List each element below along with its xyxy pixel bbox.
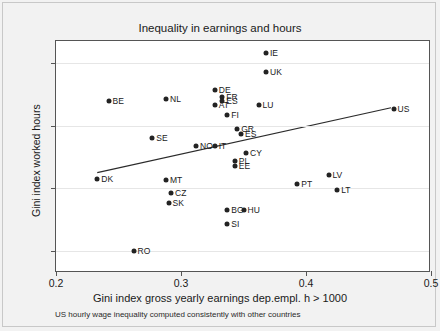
x-axis-tick-label: 0.3 — [151, 277, 211, 289]
x-axis-tick-label: 0.5 — [401, 277, 440, 289]
data-point — [225, 113, 230, 118]
data-point — [194, 144, 199, 149]
data-point-label: AT — [219, 100, 229, 110]
data-point-label: NL — [170, 94, 181, 104]
data-point — [164, 178, 169, 183]
y-axis-tick — [51, 251, 56, 252]
data-point — [212, 103, 217, 108]
data-point-label: IT — [219, 141, 227, 151]
data-point — [244, 150, 249, 155]
data-point — [95, 176, 100, 181]
y-axis-title: Gini index worked hours — [30, 104, 42, 217]
data-point-label: HU — [248, 205, 260, 215]
data-point — [391, 106, 396, 111]
data-point — [264, 69, 269, 74]
data-point — [150, 135, 155, 140]
x-axis-tick — [431, 271, 432, 276]
data-point — [335, 188, 340, 193]
data-point-label: ES — [245, 129, 256, 139]
data-point — [239, 131, 244, 136]
data-point — [225, 221, 230, 226]
data-point — [131, 249, 136, 254]
y-axis-tick — [51, 126, 56, 127]
data-point — [256, 103, 261, 108]
data-point-label: EE — [239, 161, 250, 171]
data-point-label: SE — [156, 133, 167, 143]
data-point-label: CZ — [175, 188, 186, 198]
data-point-label: CY — [250, 148, 262, 158]
chart-title: Inequality in earnings and hours — [0, 22, 440, 34]
chart-figure: Inequality in earnings and hours Gini in… — [0, 0, 440, 331]
plot-area: Gini index worked hours0.050.10.150.20.2… — [55, 40, 430, 272]
data-point-label: NO — [200, 141, 213, 151]
data-point — [212, 88, 217, 93]
data-point — [225, 208, 230, 213]
data-point-label: BE — [113, 96, 124, 106]
data-point — [106, 99, 111, 104]
data-point-label: PT — [301, 179, 312, 189]
data-point — [295, 181, 300, 186]
data-point-label: MT — [170, 175, 182, 185]
data-point-label: RO — [138, 246, 151, 256]
gridline-horizontal — [56, 188, 429, 189]
x-axis-tick — [56, 271, 57, 276]
gridline-horizontal — [56, 63, 429, 64]
data-point — [232, 164, 237, 169]
data-point — [264, 50, 269, 55]
data-point-label: SI — [231, 219, 239, 229]
chart-caption: US hourly wage inequality computed consi… — [55, 310, 300, 319]
data-point — [241, 208, 246, 213]
data-point-label: IE — [270, 48, 278, 58]
x-axis-tick — [181, 271, 182, 276]
data-point-label: UK — [270, 67, 282, 77]
y-axis-tick — [51, 188, 56, 189]
data-point — [166, 200, 171, 205]
data-point — [164, 97, 169, 102]
data-point-label: LU — [263, 100, 274, 110]
data-point-label: LV — [333, 170, 343, 180]
data-point — [212, 144, 217, 149]
gridline-horizontal — [56, 251, 429, 252]
data-point-label: FI — [231, 110, 239, 120]
data-point-label: LT — [341, 185, 350, 195]
data-point — [326, 173, 331, 178]
data-point-label: DK — [101, 174, 113, 184]
x-axis-tick — [306, 271, 307, 276]
x-axis-title: Gini index gross yearly earnings dep.emp… — [0, 292, 440, 304]
data-point-label: US — [398, 104, 410, 114]
data-point — [169, 190, 174, 195]
y-axis-tick — [51, 63, 56, 64]
x-axis-tick-label: 0.2 — [26, 277, 86, 289]
data-point-label: SK — [173, 198, 184, 208]
x-axis-tick-label: 0.4 — [276, 277, 336, 289]
